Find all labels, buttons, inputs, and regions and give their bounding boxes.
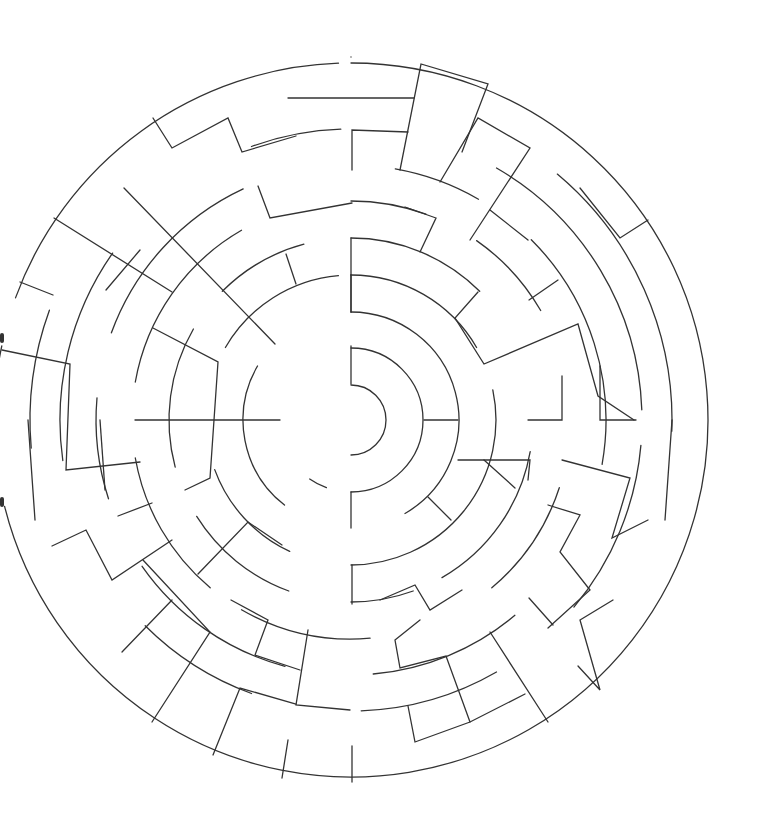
maze-wall-17 <box>455 292 634 420</box>
maze-wall-25 <box>296 630 350 710</box>
ring8-arc-a <box>252 129 341 146</box>
maze-wall-23 <box>198 522 282 574</box>
ring3-arc-left <box>243 366 284 505</box>
ring6-arc-bl <box>135 458 210 588</box>
ring8-arc-e <box>145 626 251 694</box>
maze-wall-4 <box>440 118 530 240</box>
ring6-arc-tr <box>477 241 541 311</box>
maze-wall-0 <box>153 118 296 152</box>
maze-wall-39 <box>490 632 548 722</box>
maze-wall-26 <box>213 688 296 755</box>
ring5-arc-topright <box>351 238 480 291</box>
maze-wall-5 <box>258 186 352 218</box>
maze-wall-10 <box>153 328 218 490</box>
maze-wall-19 <box>118 503 152 516</box>
maze-wall-14 <box>490 210 528 240</box>
maze-wall-8 <box>20 282 53 295</box>
exit-marker <box>0 497 4 507</box>
maze-wall-15 <box>580 188 648 238</box>
maze-wall-37 <box>395 620 470 722</box>
maze-wall-18 <box>528 376 562 420</box>
maze-wall-31 <box>484 460 515 488</box>
maze-wall-16 <box>529 280 558 300</box>
maze-wall-43 <box>28 420 35 520</box>
maze-wall-35 <box>529 598 553 625</box>
ring5-arc-lowright <box>442 452 530 578</box>
ring3-arc-right <box>351 312 459 514</box>
outer-wall-left-middle <box>0 346 2 458</box>
maze-wall-21 <box>143 560 210 722</box>
maze-walls <box>0 0 757 831</box>
ring5-arc-left <box>169 329 193 467</box>
ring7-arc-b <box>531 240 606 465</box>
ring4-arc-topleft <box>225 276 338 348</box>
ring7-arc-a <box>395 169 478 199</box>
maze-wall-6 <box>124 188 275 344</box>
maze-wall-34 <box>548 505 590 628</box>
ring6-arc-b <box>242 610 371 639</box>
ring7-arc-c <box>373 615 515 674</box>
ring6-arc-l <box>135 230 241 382</box>
ring6-arc-top <box>351 201 426 214</box>
maze-wall-30 <box>428 497 451 520</box>
maze-wall-12 <box>286 254 296 284</box>
entrance-marker <box>0 333 4 343</box>
ring9-arc-a <box>557 174 672 431</box>
maze-wall-13 <box>405 207 436 252</box>
ring9-arc-b <box>30 310 49 448</box>
maze-wall-24 <box>231 600 300 670</box>
maze-wall-33 <box>562 460 648 538</box>
maze-wall-3 <box>400 64 488 170</box>
maze-wall-27 <box>282 740 288 778</box>
ring4-arc-top <box>351 275 477 348</box>
ring2-arc-left <box>310 479 327 488</box>
maze-wall-32 <box>458 460 530 480</box>
maze-wall-40 <box>578 600 613 690</box>
center-d-arc <box>351 385 386 455</box>
ring8-arc-d <box>361 672 496 711</box>
ring5-arc-topleft <box>222 244 304 291</box>
ring5-arc-bottom <box>351 591 413 602</box>
maze-wall-2 <box>352 130 408 170</box>
maze-wall-42 <box>665 420 672 520</box>
ring2-arc <box>351 348 423 492</box>
ring6-arc-rl <box>492 488 560 588</box>
ring4-arc-left <box>215 470 290 552</box>
maze-wall-9 <box>2 350 140 470</box>
